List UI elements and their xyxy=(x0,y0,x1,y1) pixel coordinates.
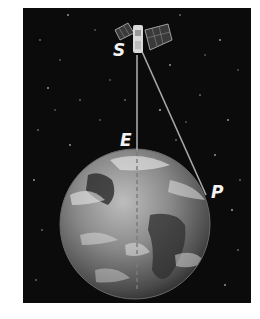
diagram-canvas xyxy=(0,0,260,319)
label-e: E xyxy=(120,132,132,149)
satellite-earth-diagram: S E P xyxy=(0,0,260,319)
label-s: S xyxy=(113,42,125,59)
label-p: P xyxy=(211,184,223,201)
earth xyxy=(60,149,210,299)
